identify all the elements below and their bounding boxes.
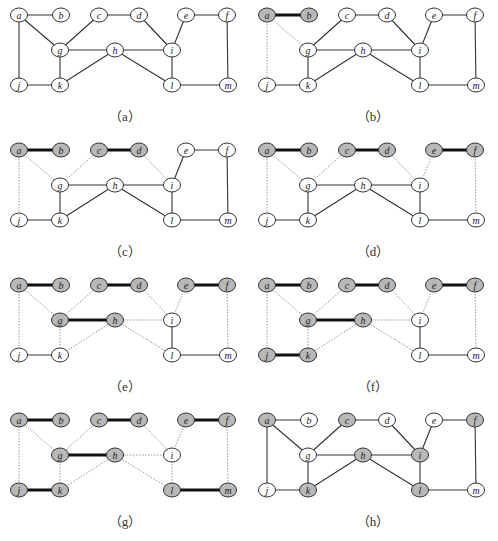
node-l: l [164, 348, 181, 362]
svg-text:a: a [17, 10, 22, 21]
svg-text:k: k [306, 215, 311, 226]
edge [308, 185, 363, 220]
node-j: j [259, 213, 276, 227]
panel-b: abcdefghijklm（b） [248, 0, 498, 135]
node-a: a [259, 278, 276, 292]
edge [308, 455, 363, 490]
svg-text:a: a [17, 280, 22, 291]
svg-text:c: c [97, 10, 102, 21]
removed-edge [308, 320, 363, 355]
node-c: c [339, 143, 356, 157]
node-j: j [259, 348, 276, 362]
node-i: i [412, 178, 429, 192]
svg-text:l: l [171, 485, 174, 496]
removed-edge [115, 320, 172, 355]
node-d: d [379, 413, 396, 427]
node-b: b [53, 8, 70, 22]
node-k: k [300, 78, 317, 92]
node-g: g [52, 448, 69, 462]
node-f: f [467, 413, 484, 427]
node-i: i [412, 43, 429, 57]
node-g: g [300, 43, 317, 57]
node-c: c [91, 8, 108, 22]
edge [363, 50, 420, 85]
svg-text:c: c [345, 415, 350, 426]
node-g: g [300, 178, 317, 192]
node-k: k [300, 213, 317, 227]
graph-svg: abcdefghijklm [0, 0, 250, 105]
node-b: b [53, 413, 70, 427]
svg-text:b: b [59, 280, 64, 291]
node-i: i [164, 313, 181, 327]
node-f: f [219, 143, 236, 157]
node-h: h [107, 178, 124, 192]
node-e: e [426, 413, 443, 427]
svg-text:c: c [97, 280, 102, 291]
edge [363, 185, 420, 220]
node-j: j [259, 78, 276, 92]
svg-text:h: h [361, 45, 366, 56]
node-k: k [52, 483, 69, 497]
svg-text:m: m [472, 215, 479, 226]
svg-text:i: i [171, 450, 174, 461]
panel-caption: （f） [248, 376, 498, 395]
svg-text:c: c [97, 145, 102, 156]
node-a: a [11, 143, 28, 157]
svg-text:e: e [184, 415, 189, 426]
edge [227, 150, 228, 220]
node-l: l [164, 483, 181, 497]
svg-text:a: a [17, 415, 22, 426]
node-b: b [53, 143, 70, 157]
edge [308, 50, 363, 85]
node-c: c [91, 413, 108, 427]
svg-text:e: e [184, 145, 189, 156]
svg-text:g: g [306, 450, 311, 461]
panel-e: abcdefghijklm（e） [0, 270, 250, 405]
graph-svg: abcdefghijklm [248, 405, 498, 510]
svg-text:g: g [306, 180, 311, 191]
removed-edge [227, 285, 228, 355]
graph-svg: abcdefghijklm [248, 0, 498, 105]
svg-text:m: m [224, 80, 231, 91]
panel-caption: （g） [0, 511, 250, 530]
svg-text:k: k [58, 80, 63, 91]
node-e: e [178, 413, 195, 427]
node-l: l [412, 213, 429, 227]
node-e: e [426, 8, 443, 22]
node-i: i [164, 448, 181, 462]
removed-edge [60, 455, 115, 490]
node-i: i [412, 448, 429, 462]
svg-text:l: l [419, 350, 422, 361]
node-b: b [53, 278, 70, 292]
panel-c: abcdefghijklm（c） [0, 135, 250, 270]
node-g: g [52, 313, 69, 327]
edge [363, 455, 420, 490]
node-h: h [107, 448, 124, 462]
graph-svg: abcdefghijklm [248, 135, 498, 240]
node-d: d [131, 278, 148, 292]
node-m: m [468, 348, 485, 362]
svg-text:l: l [171, 350, 174, 361]
svg-text:k: k [58, 215, 63, 226]
node-e: e [426, 278, 443, 292]
graph-svg: abcdefghijklm [0, 270, 250, 375]
svg-text:h: h [361, 450, 366, 461]
node-j: j [259, 483, 276, 497]
svg-text:a: a [265, 10, 270, 21]
svg-text:c: c [345, 145, 350, 156]
node-d: d [131, 413, 148, 427]
node-a: a [11, 8, 28, 22]
svg-text:l: l [419, 215, 422, 226]
node-d: d [379, 8, 396, 22]
svg-text:l: l [171, 80, 174, 91]
node-l: l [412, 348, 429, 362]
node-k: k [52, 348, 69, 362]
node-c: c [339, 413, 356, 427]
panel-h: abcdefghijklm（h） [248, 405, 498, 540]
node-m: m [468, 213, 485, 227]
svg-text:h: h [361, 180, 366, 191]
svg-text:h: h [361, 315, 366, 326]
svg-text:e: e [184, 280, 189, 291]
node-e: e [178, 8, 195, 22]
node-g: g [52, 178, 69, 192]
